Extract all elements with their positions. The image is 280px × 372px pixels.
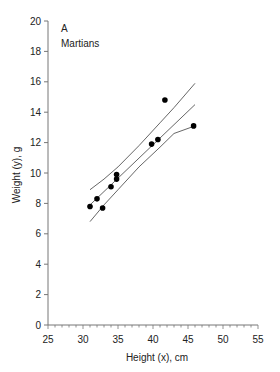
x-tick-label: 40: [147, 334, 159, 345]
y-tick-label: 16: [30, 76, 42, 87]
y-tick-label: 6: [35, 228, 41, 239]
lower-confidence-line: [90, 126, 195, 222]
y-tick-label: 12: [30, 137, 42, 148]
data-point: [108, 184, 114, 190]
panel-label: A: [61, 23, 68, 34]
y-axis-label: Weight (y), g: [11, 147, 22, 204]
data-point: [162, 97, 168, 103]
y-tick-label: 10: [30, 168, 42, 179]
data-point: [87, 204, 93, 210]
y-tick-label: 8: [35, 198, 41, 209]
data-point: [191, 123, 197, 129]
x-tick-label: 45: [182, 334, 194, 345]
y-tick-label: 18: [30, 46, 42, 57]
y-tick-label: 0: [35, 320, 41, 331]
y-tick-label: 20: [30, 16, 42, 27]
confidence-bands: [90, 83, 195, 221]
axes: 0246810121416182025303540455055: [30, 16, 264, 346]
data-point: [94, 196, 100, 202]
x-tick-label: 55: [252, 334, 264, 345]
y-tick-label: 4: [35, 259, 41, 270]
x-tick-label: 35: [112, 334, 124, 345]
regression-line: [90, 105, 195, 205]
x-tick-label: 25: [42, 334, 54, 345]
data-point: [114, 172, 120, 178]
chart-title: Martians: [61, 38, 99, 49]
data-point: [149, 141, 155, 147]
data-points: [87, 97, 196, 211]
upper-confidence-line: [90, 83, 195, 189]
x-axis-label: Height (x), cm: [126, 352, 188, 363]
y-tick-label: 14: [30, 107, 42, 118]
data-point: [100, 205, 106, 211]
data-point: [155, 137, 161, 143]
y-tick-label: 2: [35, 289, 41, 300]
x-tick-label: 50: [217, 334, 229, 345]
x-tick-label: 30: [77, 334, 89, 345]
scatter-chart: 0246810121416182025303540455055 A Martia…: [0, 0, 280, 372]
